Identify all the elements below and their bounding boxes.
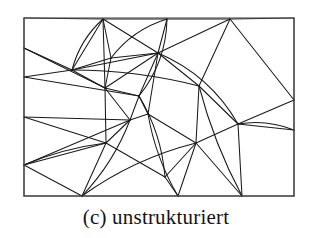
figure-container: (c) unstrukturiert [0, 0, 312, 238]
figure-caption: (c) unstrukturiert [0, 203, 312, 231]
